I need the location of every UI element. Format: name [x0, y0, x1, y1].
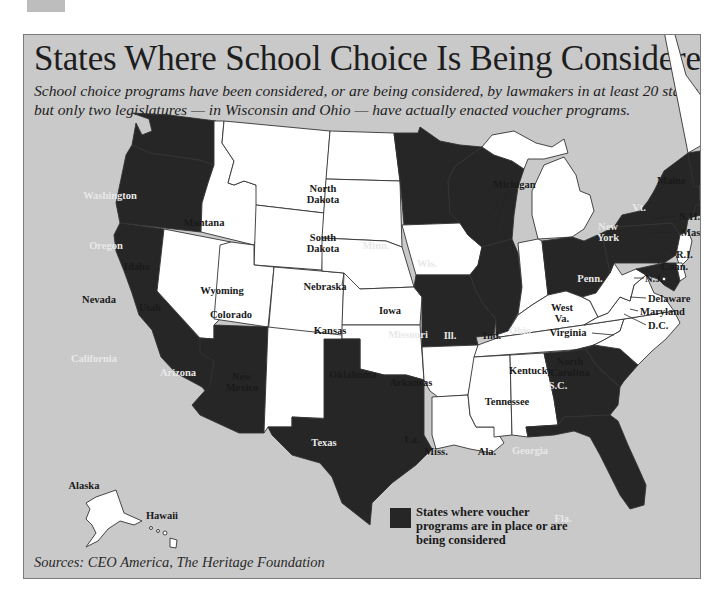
legend-swatch — [390, 508, 411, 528]
label-texas: Texas — [311, 437, 336, 448]
label-michigan: Michigan — [493, 179, 536, 190]
figure-sources: Sources: CEO America, The Heritage Found… — [34, 554, 325, 571]
label-virginia: Virginia — [550, 327, 588, 338]
label-arizona: Arizona — [160, 367, 197, 378]
label-washington: Washington — [83, 190, 137, 201]
label-oklahoma: Oklahoma — [329, 369, 377, 380]
page-corner-mark — [27, 0, 65, 12]
michigan-leader-lower — [496, 192, 507, 228]
label-ohio: Ohio — [509, 325, 531, 336]
label-north-dakota-2: Dakota — [307, 194, 340, 205]
connecticut-leader — [652, 257, 660, 265]
label-hawaii: Hawaii — [146, 510, 178, 521]
label-massachusetts: Mass. — [681, 227, 701, 238]
rhode-island-leader — [662, 247, 674, 253]
label-georgia: Georgia — [512, 445, 549, 456]
label-north-carolina-1: North — [557, 356, 584, 367]
label-vermont: Vt. — [632, 202, 646, 213]
label-delaware: Delaware — [648, 293, 691, 304]
label-pennsylvania: Penn. — [577, 273, 603, 284]
label-california: California — [71, 353, 118, 364]
label-nevada: Nevada — [82, 294, 117, 305]
label-new-mexico-1: New — [232, 371, 252, 382]
label-kentucky: Kentucky — [509, 365, 554, 376]
label-connecticut: Conn. — [661, 261, 689, 272]
label-wisconsin: Wis. — [417, 258, 437, 269]
label-idaho: Idaho — [124, 261, 150, 272]
label-louisiana: La. — [405, 434, 420, 445]
label-west-virginia-1: West — [551, 302, 574, 313]
label-maine: Maine — [657, 175, 686, 186]
label-illinois: Ill. — [444, 330, 457, 341]
label-oregon: Oregon — [89, 240, 123, 251]
label-maryland: Maryland — [640, 306, 685, 317]
label-mississippi: Miss. — [424, 446, 448, 457]
map-labels: Washington Oregon California Idaho Nevad… — [24, 35, 701, 579]
label-wyoming: Wyoming — [200, 285, 244, 296]
massachusetts-leader — [652, 232, 678, 233]
state-maine — [664, 35, 701, 153]
label-alaska: Alaska — [69, 480, 101, 491]
label-indiana: Ind. — [483, 330, 502, 341]
michigan-leader-upper — [486, 192, 507, 219]
state-alaska — [86, 490, 142, 547]
label-missouri: Missouri — [388, 329, 428, 340]
legend-label: States where voucher programs are in pla… — [416, 505, 576, 547]
label-west-virginia-2: Va. — [555, 313, 570, 324]
delaware-leader — [630, 297, 646, 298]
label-south-dakota-1: South — [310, 232, 336, 243]
label-arkansas: Arkansas — [390, 377, 433, 388]
label-rhode-island: R.I. — [676, 249, 693, 260]
label-dc: D.C. — [648, 320, 669, 331]
state-hawaii — [150, 527, 178, 549]
label-tennessee: Tennessee — [485, 396, 530, 407]
label-kansas: Kansas — [314, 325, 347, 336]
label-utah: Utah — [139, 302, 161, 313]
label-alabama: Ala. — [478, 446, 497, 457]
label-north-dakota-1: North — [310, 183, 337, 194]
label-iowa: Iowa — [379, 305, 402, 316]
maryland-leader — [630, 309, 638, 311]
label-new-jersey: N.J. — [645, 273, 663, 284]
label-south-carolina: S.C. — [549, 380, 568, 391]
label-new-hampshire: N.H. — [679, 211, 700, 222]
label-montana: Montana — [184, 217, 226, 228]
label-nebraska: Nebraska — [303, 281, 347, 292]
label-new-york-1: New — [598, 221, 618, 232]
label-new-mexico-2: Mexico — [226, 382, 259, 393]
label-north-carolina-2: Carolina — [550, 367, 590, 378]
virginia-leader — [592, 333, 614, 335]
label-colorado: Colorado — [210, 309, 252, 320]
map-figure: States Where School Choice Is Being Cons… — [23, 34, 701, 579]
label-new-york-2: York — [597, 232, 619, 243]
label-south-dakota-2: Dakota — [307, 243, 340, 254]
new-hampshire-leader — [654, 216, 676, 219]
label-minnesota: Minn. — [362, 240, 390, 251]
